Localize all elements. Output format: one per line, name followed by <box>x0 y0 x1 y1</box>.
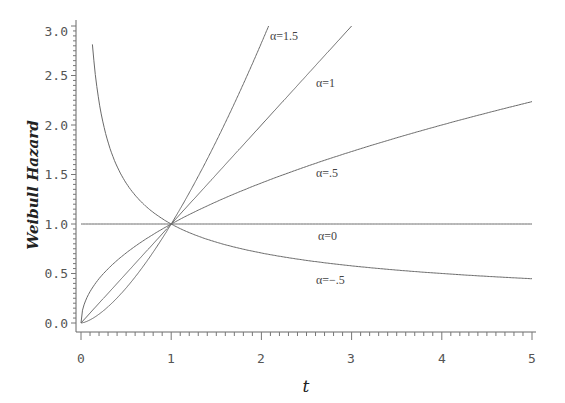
x-tick-label: 5 <box>528 351 536 366</box>
curve-α=1.5 <box>81 26 269 323</box>
curve-labels: α=1.5 α=1 α=.5 α=0 α=−.5 <box>270 29 345 287</box>
y-tick-label: 1.5 <box>45 167 68 182</box>
curves <box>81 26 532 323</box>
y-tick-label: 2.0 <box>45 118 68 133</box>
x-tick-label: 2 <box>257 351 265 366</box>
axes <box>76 20 536 332</box>
x-tick-labels: 0 1 2 3 4 5 <box>77 351 536 366</box>
x-tick-label: 4 <box>438 351 446 366</box>
x-tick-label: 3 <box>347 351 355 366</box>
y-tick-label: 0.5 <box>45 266 68 281</box>
y-axis-ticks <box>71 26 76 323</box>
x-axis-ticks <box>81 332 532 340</box>
label-alpha-1: α=1 <box>316 76 335 90</box>
curve-α=.5 <box>81 102 532 323</box>
x-axis-title: t <box>303 376 310 396</box>
weibull-hazard-chart: 0.0 0.5 1.0 1.5 2.0 2.5 3.0 0 1 2 3 4 5 … <box>0 0 565 403</box>
y-tick-labels: 0.0 0.5 1.0 1.5 2.0 2.5 3.0 <box>45 24 68 331</box>
y-tick-label: 3.0 <box>45 24 68 39</box>
label-alpha-0-5: α=.5 <box>316 166 338 180</box>
y-axis-title: Weibull Hazard <box>24 120 42 250</box>
x-tick-label: 1 <box>167 351 175 366</box>
label-alpha-neg-0-5: α=−.5 <box>316 273 345 287</box>
y-tick-label: 2.5 <box>45 68 68 83</box>
label-alpha-1-5: α=1.5 <box>270 29 298 43</box>
y-tick-label: 1.0 <box>45 217 68 232</box>
label-alpha-0: α=0 <box>318 229 337 243</box>
x-tick-label: 0 <box>77 351 85 366</box>
y-tick-label: 0.0 <box>45 316 68 331</box>
